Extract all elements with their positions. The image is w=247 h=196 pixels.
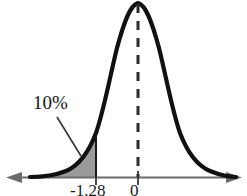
axis-arrow-left-icon <box>6 172 22 183</box>
normal-curve-figure: 10% -1.28 0 <box>0 0 247 196</box>
x-tick-label-mean: 0 <box>130 181 139 196</box>
x-tick-label-zscore: -1.28 <box>70 181 105 196</box>
normal-curve <box>30 3 236 177</box>
area-percentage-label: 10% <box>33 92 68 114</box>
callout-leader-line <box>57 117 81 156</box>
